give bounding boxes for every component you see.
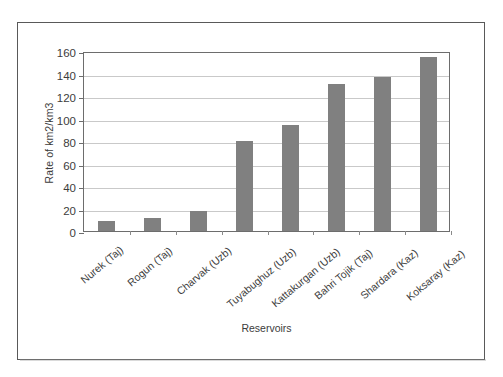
y-tick-mark (79, 166, 84, 167)
x-tick-mark (451, 231, 452, 235)
x-tick-mark (176, 231, 177, 235)
y-tick-mark (79, 143, 84, 144)
gridline (84, 166, 449, 167)
y-tick-label: 100 (57, 115, 76, 127)
y-tick-label: 80 (63, 137, 76, 149)
bar-chart: Rate of km2/km3 020406080100120140160 Re… (0, 0, 503, 377)
bar (328, 84, 345, 231)
x-tick-mark (222, 231, 223, 235)
x-tick-mark (268, 231, 269, 235)
plot-area: 020406080100120140160 (83, 52, 450, 232)
y-tick-label: 0 (70, 227, 76, 239)
bar (190, 211, 207, 231)
x-axis-category-label: Charvak (Uzb) (174, 244, 234, 297)
x-axis-title: Reservoirs (83, 322, 450, 334)
y-tick-label: 40 (63, 182, 76, 194)
y-tick-mark (79, 121, 84, 122)
gridline (84, 143, 449, 144)
bar (236, 141, 253, 231)
y-tick-mark (79, 188, 84, 189)
bar (420, 57, 437, 231)
y-tick-mark (79, 233, 84, 234)
gridline (84, 211, 449, 212)
y-tick-label: 120 (57, 92, 76, 104)
gridline (84, 76, 449, 77)
gridline (84, 98, 449, 99)
y-tick-mark (79, 98, 84, 99)
y-tick-label: 140 (57, 70, 76, 82)
y-tick-mark (79, 211, 84, 212)
x-tick-mark (313, 231, 314, 235)
bar (98, 221, 115, 231)
x-tick-mark (359, 231, 360, 235)
y-axis-title: Rate of km2/km3 (43, 63, 55, 223)
bar (144, 218, 161, 232)
y-tick-label: 20 (63, 205, 76, 217)
x-tick-mark (130, 231, 131, 235)
bar (374, 77, 391, 231)
bar (282, 125, 299, 231)
x-axis-category-label: Nurek (Taj) (78, 243, 125, 285)
gridline (84, 121, 449, 122)
y-tick-mark (79, 53, 84, 54)
y-tick-mark (79, 76, 84, 77)
y-tick-label: 60 (63, 160, 76, 172)
gridline (84, 188, 449, 189)
x-tick-mark (405, 231, 406, 235)
x-axis-category-label: Rogun (Taj) (125, 244, 174, 288)
y-tick-label: 160 (57, 47, 76, 59)
